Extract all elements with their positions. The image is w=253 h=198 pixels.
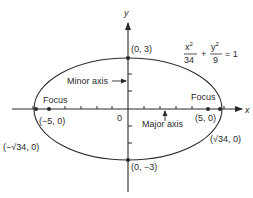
vertex-top-dot — [126, 56, 130, 60]
svg-text:34: 34 — [184, 55, 194, 65]
label-bottom-point: (0, −3) — [131, 162, 157, 172]
annotation-focus-right: Focus — [191, 92, 216, 102]
x-axis-label: x — [244, 105, 250, 115]
focus-left-dot — [47, 107, 51, 111]
svg-text:= 1: = 1 — [225, 49, 238, 59]
y-axis-label: y — [123, 8, 129, 18]
annotation-major-axis: Major axis — [142, 119, 184, 129]
origin-label: 0 — [117, 113, 122, 123]
svg-text:y2: y2 — [211, 41, 220, 52]
svg-text:x2: x2 — [185, 41, 194, 52]
focus-right-dot — [206, 107, 210, 111]
label-focus-left-point: (−5, 0) — [39, 116, 65, 126]
svg-text:9: 9 — [213, 55, 218, 65]
ellipse-equation: x2 34 + y2 9 = 1 — [184, 41, 238, 65]
label-vertex-left-point: (−√34, 0) — [3, 142, 39, 152]
label-focus-right-point: (5, 0) — [195, 113, 216, 123]
ellipse-diagram: x y 0 (0, 3) (0, −3) (−5, 0) (5, 0) (−√3… — [0, 0, 253, 198]
vertex-left-dot — [34, 107, 38, 111]
annotation-minor-axis: Minor axis — [67, 76, 109, 86]
annotation-focus-left: Focus — [43, 95, 68, 105]
vertex-bottom-dot — [126, 158, 130, 162]
svg-text:+: + — [201, 49, 206, 59]
label-vertex-right-point: (√34, 0) — [210, 134, 241, 144]
vertex-right-dot — [218, 107, 222, 111]
label-top-point: (0, 3) — [131, 44, 152, 54]
